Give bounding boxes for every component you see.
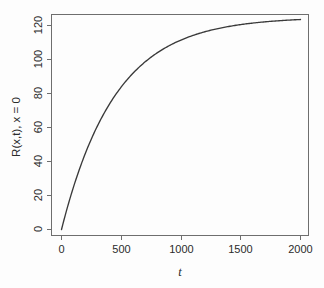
y-tick-label-40: 40	[32, 155, 44, 167]
y-tick-label-60: 60	[32, 121, 44, 133]
y-tick-label-80: 80	[32, 87, 44, 99]
y-tick-label-120: 120	[32, 16, 44, 34]
x-tick-label-1500: 1500	[228, 243, 252, 255]
y-axis-label: R(x,t), x = 0	[10, 97, 22, 157]
x-tick-label-500: 500	[112, 243, 130, 255]
x-tick-label-2000: 2000	[288, 243, 312, 255]
y-tick-label-0: 0	[32, 226, 44, 232]
y-tick-label-100: 100	[32, 50, 44, 68]
line-chart: 0 20 40 60 80 100 120 0 500 1000 1500 20…	[0, 0, 324, 288]
x-tick-label-1000: 1000	[169, 243, 193, 255]
chart-background	[0, 0, 324, 288]
x-tick-label-0: 0	[58, 243, 64, 255]
figure-container: 0 20 40 60 80 100 120 0 500 1000 1500 20…	[0, 0, 324, 288]
y-tick-label-20: 20	[32, 189, 44, 201]
x-axis-label: t	[178, 265, 182, 279]
